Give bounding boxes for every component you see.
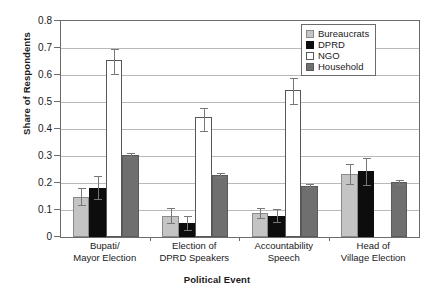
error-bar-line xyxy=(81,188,82,205)
error-bar-cap-upper xyxy=(346,164,354,165)
legend-label: NGO xyxy=(318,50,340,61)
error-bar-cap-lower xyxy=(273,222,281,223)
bar-household xyxy=(301,186,318,237)
error-bar-cap-upper xyxy=(167,208,175,209)
error-bar-line xyxy=(187,216,188,230)
y-tick-label: 0.1 xyxy=(12,204,52,215)
error-bar-line xyxy=(277,209,278,222)
error-bar-cap-lower xyxy=(184,230,192,231)
error-bar-cap-upper xyxy=(200,108,208,109)
legend-swatch-ngo xyxy=(306,52,314,60)
error-bar-line xyxy=(350,164,351,185)
error-bar-cap-lower xyxy=(200,131,208,132)
error-bar-cap-upper xyxy=(396,180,404,181)
y-tick-label: 0.6 xyxy=(12,69,52,80)
error-bar-cap-upper xyxy=(306,184,314,185)
error-bar-line xyxy=(260,208,261,218)
chart-legend: BureaucratsDPRDNGOHousehold xyxy=(301,24,376,76)
error-bar-cap-upper xyxy=(273,209,281,210)
legend-swatch-dprd xyxy=(306,41,314,49)
y-tick-label: 0.2 xyxy=(12,177,52,188)
error-bar-cap-lower xyxy=(306,187,314,188)
y-tick-label: 0.5 xyxy=(12,96,52,107)
error-bar-cap-upper xyxy=(217,173,225,174)
bar-household xyxy=(212,175,229,237)
error-bar-cap-upper xyxy=(290,78,298,79)
error-bar-cap-upper xyxy=(94,176,102,177)
error-bar-cap-lower xyxy=(290,104,298,105)
legend-swatch-household xyxy=(306,63,314,71)
bar-household xyxy=(122,155,139,237)
error-bar-cap-upper xyxy=(363,158,371,159)
error-bar-line xyxy=(98,176,99,199)
legend-swatch-bureaucrats xyxy=(306,30,314,38)
legend-label: DPRD xyxy=(318,39,345,50)
y-tick-label: 0.4 xyxy=(12,123,52,134)
error-bar-line xyxy=(204,108,205,131)
error-bar-cap-upper xyxy=(127,153,135,154)
error-bar-cap-lower xyxy=(78,205,86,206)
error-bar-cap-upper xyxy=(111,49,119,50)
bar-ngo xyxy=(285,90,302,237)
error-bar-cap-lower xyxy=(396,184,404,185)
y-tick-label: 0.3 xyxy=(12,150,52,161)
error-bar-cap-lower xyxy=(94,199,102,200)
error-bar-cap-lower xyxy=(363,185,371,186)
y-axis-title: Share of Respondents xyxy=(21,4,32,164)
error-bar-line xyxy=(171,208,172,223)
x-group-label: Head of Village Election xyxy=(318,240,428,264)
y-tick-label: 0 xyxy=(12,231,52,242)
legend-label: Household xyxy=(318,61,363,72)
error-bar-line xyxy=(293,78,294,104)
legend-item-household: Household xyxy=(306,61,369,72)
bar-ngo xyxy=(195,117,212,237)
bar-chart-figure: Share of Respondents Political Event 00.… xyxy=(0,0,434,297)
error-bar-cap-lower xyxy=(111,74,119,75)
error-bar-cap-lower xyxy=(167,223,175,224)
x-axis-title: Political Event xyxy=(0,274,434,285)
bar-household xyxy=(391,182,408,237)
error-bar-cap-upper xyxy=(257,208,265,209)
legend-label: Bureaucrats xyxy=(318,28,369,39)
legend-item-bureaucrats: Bureaucrats xyxy=(306,28,369,39)
error-bar-line xyxy=(366,158,367,184)
error-bar-cap-lower xyxy=(217,177,225,178)
y-tick-label: 0.7 xyxy=(12,42,52,53)
error-bar-cap-lower xyxy=(127,157,135,158)
bar-ngo xyxy=(106,60,123,237)
legend-item-dprd: DPRD xyxy=(306,39,369,50)
error-bar-cap-upper xyxy=(78,188,86,189)
error-bar-cap-upper xyxy=(184,216,192,217)
error-bar-cap-lower xyxy=(346,184,354,185)
y-tick-label: 0.8 xyxy=(12,15,52,26)
legend-item-ngo: NGO xyxy=(306,50,369,61)
error-bar-line xyxy=(114,49,115,74)
error-bar-cap-lower xyxy=(257,218,265,219)
